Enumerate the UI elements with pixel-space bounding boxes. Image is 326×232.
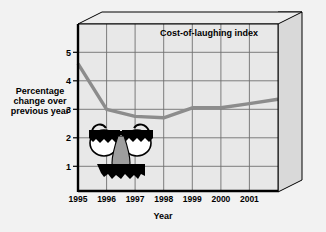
chart-3d-top-panel (78, 12, 302, 24)
chart-title: Cost-of-laughing index (160, 28, 258, 38)
x-tick-label-2000: 2000 (206, 195, 236, 205)
y-tick-label-4: 4 (57, 76, 71, 86)
bridge-icon (116, 131, 126, 135)
x-tick-label-1996: 1996 (92, 195, 122, 205)
x-tick-label-1999: 1999 (177, 195, 207, 205)
x-tick-label-1998: 1998 (149, 195, 179, 205)
y-tick-label-2: 2 (57, 133, 71, 143)
y-tick-label-1: 1 (57, 162, 71, 172)
x-tick-label-1997: 1997 (120, 195, 150, 205)
mustache-icon (97, 164, 145, 179)
y-tick-label-5: 5 (57, 48, 71, 58)
chart-screenshot: Cost-of-laughing index Percentage change… (0, 0, 326, 232)
chart-3d-right-panel (278, 12, 302, 192)
x-tick-label-2001: 2001 (234, 195, 264, 205)
x-tick-label-1995: 1995 (63, 195, 93, 205)
groucho-glasses-icon (85, 119, 157, 187)
y-tick-label-3: 3 (57, 105, 71, 115)
x-axis-title: Year (0, 211, 326, 221)
